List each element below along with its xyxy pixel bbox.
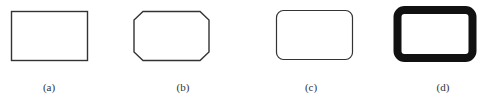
panel-b: (b) <box>134 12 209 95</box>
shape-comparison-figure: (a) (b) (c) (d) <box>0 0 487 103</box>
panel-d: (d) <box>398 10 473 94</box>
panel-c-label: (c) <box>305 81 318 94</box>
panel-d-label: (d) <box>437 81 450 94</box>
panel-b-label: (b) <box>177 81 190 94</box>
panel-a-label: (a) <box>43 81 56 94</box>
panel-c: (c) <box>277 11 353 95</box>
panel-a: (a) <box>12 12 88 95</box>
square-rectangle-shape <box>12 12 88 61</box>
chamfered-rectangle-shape <box>134 12 209 61</box>
rounded-rectangle-shape <box>277 11 353 60</box>
thick-rounded-rectangle-shape <box>398 10 473 58</box>
